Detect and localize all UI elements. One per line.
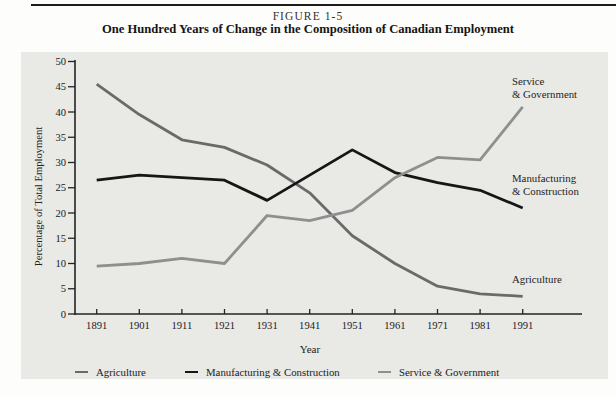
legend-label: Manufacturing & Construction [206,366,340,378]
series-annotation-service-government: Service & Government [512,75,577,100]
annotation-line: & Construction [512,185,579,198]
x-tick-label: 1981 [470,320,491,331]
legend-item-manufacturing-construction: Manufacturing & Construction [185,365,340,379]
x-axis-label: Year [300,343,320,355]
series-annotation-agriculture: Agriculture [512,273,562,286]
x-tick-label: 1901 [129,320,150,331]
y-tick-label: 45 [55,81,66,92]
figure-page: FIGURE 1-5 One Hundred Years of Change i… [0,0,616,397]
x-tick-label: 1941 [299,320,320,331]
x-tick-label: 1951 [342,320,363,331]
legend-label: Agriculture [96,366,146,378]
legend-swatch [185,371,198,374]
chart-plot-area: 0510152025303540455018911901191119211931… [21,52,608,379]
y-tick-label: 35 [55,132,66,143]
figure-number: FIGURE 1-5 [0,10,616,22]
legend-swatch [378,371,391,374]
series-annotation-manufacturing-construction: Manufacturing & Construction [512,172,579,197]
x-tick-label: 1991 [512,320,533,331]
y-axis-label: Percentage of Total Employment [33,119,44,275]
legend-item-agriculture: Agriculture [75,365,146,379]
legend-swatch [75,371,88,374]
legend-item-service-government: Service & Government [378,365,499,379]
y-tick-label: 30 [55,157,66,168]
y-tick-label: 5 [61,283,66,294]
y-tick-label: 15 [55,233,66,244]
annotation-line: Service [512,75,577,88]
annotation-line: Manufacturing [512,172,579,185]
annotation-line: Agriculture [512,273,562,286]
x-tick-label: 1911 [172,320,193,331]
figure-title: One Hundred Years of Change in the Compo… [0,22,616,37]
y-tick-label: 25 [55,182,66,193]
x-tick-label: 1921 [214,320,235,331]
chart-panel: 0510152025303540455018911901191119211931… [21,52,608,379]
y-tick-label: 50 [55,56,66,67]
x-tick-label: 1931 [257,320,278,331]
x-tick-label: 1971 [427,320,448,331]
legend-label: Service & Government [399,366,499,378]
annotation-line: & Government [512,88,577,101]
y-tick-label: 0 [61,309,66,320]
top-rule [31,4,616,6]
y-tick-label: 10 [55,258,66,269]
y-tick-label: 40 [55,107,66,118]
x-tick-label: 1891 [86,320,107,331]
y-tick-label: 20 [55,208,66,219]
agriculture-line [97,84,523,296]
x-tick-label: 1961 [384,320,405,331]
